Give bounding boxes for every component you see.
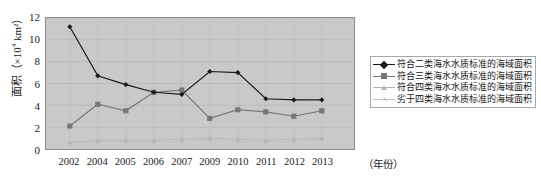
legend-item: 符合三类海水水质标准的海域面积 [373,71,532,83]
data-point-marker [123,108,128,113]
legend-symbol [381,85,387,90]
legend-item: 符合二类海水水质标准的海域面积 [373,59,532,71]
data-point-marker [179,87,184,92]
data-point-marker [67,24,72,29]
legend-marker-triangle-icon [373,83,395,93]
y-axis-title-text: 面积（×10 [11,47,23,97]
data-point-marker [291,97,296,102]
legend-symbol [381,73,387,79]
data-point-marker [291,114,296,119]
data-point-marker [319,108,324,113]
legend-label: 符合二类海水水质标准的海域面积 [397,59,532,70]
data-point-marker [319,97,324,102]
legend-item: 劣于四类海水水质标准的海域面积 [373,94,532,106]
y-axis-tick: 12 [20,12,40,22]
data-point-marker [123,82,128,87]
legend-marker-square-icon [373,71,395,81]
y-axis-tick: 4 [20,101,40,111]
series-line [70,140,322,143]
y-axis-title-exponent: 4 [10,44,18,48]
legend-label: 符合四类海水水质标准的海域面积 [397,82,532,93]
x-axis-tick: 2013 [306,156,340,167]
y-axis-tick: 0 [20,145,40,155]
data-point-marker [67,124,72,129]
data-point-marker [95,73,100,78]
data-point-marker [207,116,212,121]
y-axis-tick: 6 [20,79,40,89]
y-axis-tick: 2 [20,123,40,133]
series-line [70,90,322,126]
data-point-marker [235,107,240,112]
y-axis-tick: 8 [20,56,40,66]
series-line [70,27,322,100]
x-axis-unit-label: （年份） [363,156,403,171]
legend-label: 符合三类海水水质标准的海域面积 [397,71,532,82]
data-point-marker [263,109,268,114]
legend-symbol [380,61,388,69]
legend-label: 劣于四类海水水质标准的海域面积 [397,94,532,105]
chart-figure: 面积（×104 km²） 121086420 20022004200520062… [0,0,541,191]
legend-item: 符合四类海水水质标准的海域面积 [373,82,532,94]
legend-marker-diamond-icon [373,60,395,70]
plot-canvas [46,18,354,149]
y-axis-tick: 10 [20,34,40,44]
chart-legend: 符合二类海水水质标准的海域面积符合三类海水水质标准的海域面积符合四类海水水质标准… [370,56,536,108]
legend-symbol [380,97,388,105]
plot-area [45,17,355,150]
legend-marker-cross-icon [373,94,395,104]
data-point-marker [95,102,100,107]
